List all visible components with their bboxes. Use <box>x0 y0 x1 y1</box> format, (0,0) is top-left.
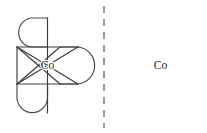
left-metal-label: Co <box>41 59 55 71</box>
chemical-structure-figure: Co C <box>0 0 207 133</box>
right-metal-label: Co <box>154 59 168 71</box>
left-structure: Co <box>17 18 95 113</box>
structure-canvas: Co C <box>0 0 207 133</box>
left-chelate-ring-right <box>60 47 95 84</box>
left-chelate-ring-bottom <box>17 84 48 113</box>
left-chelate-ring-top <box>19 18 48 47</box>
